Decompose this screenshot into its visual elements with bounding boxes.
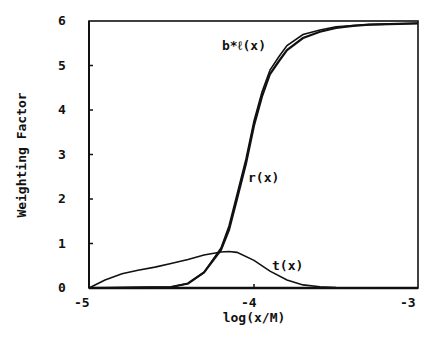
y-tick-label-4: 4: [58, 102, 66, 117]
curve-label-r: r(x): [248, 170, 279, 185]
curve-label-t: t(x): [272, 258, 303, 273]
x-tick-label-neg5: -5: [74, 295, 90, 310]
y-tick-label-3: 3: [58, 147, 66, 162]
y-axis-title: Weighting Factor: [14, 92, 29, 217]
x-axis-title: log(x/M): [223, 310, 286, 325]
curve-t: [89, 252, 418, 289]
y-tick-label-2: 2: [58, 191, 66, 206]
y-tick-label-0: 0: [58, 280, 66, 295]
curve-b-ell: [89, 23, 418, 288]
curve-r: [89, 23, 418, 288]
weighting-factor-chart: 0 1 2 3 4 5 6 -5 -4 -3 log(x/M) Weightin…: [0, 0, 429, 339]
y-tick-label-1: 1: [58, 236, 66, 251]
y-tick-label-6: 6: [58, 13, 66, 28]
x-tick-label-neg4: -4: [241, 295, 257, 310]
plot-frame: [89, 21, 418, 288]
curve-label-b-ell: b*ℓ(x): [222, 38, 266, 53]
y-tick-label-5: 5: [58, 58, 66, 73]
x-tick-label-neg3: -3: [400, 295, 416, 310]
